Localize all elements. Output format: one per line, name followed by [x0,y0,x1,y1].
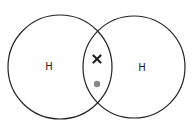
right-atom-shell [83,16,185,118]
left-atom-shell [8,15,112,119]
cross-electron-icon [94,56,101,63]
dot-electron-icon [94,81,100,87]
dot-cross-diagram [0,0,194,124]
right-atom-label: H [138,63,146,73]
left-atom-label: H [45,62,53,72]
